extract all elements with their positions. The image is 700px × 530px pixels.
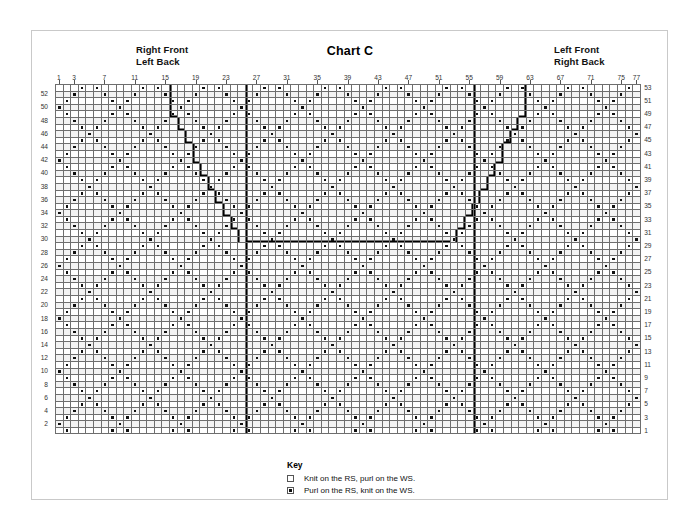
chart-cell [564,98,572,105]
chart-cell [466,216,474,223]
chart-cell [488,190,496,197]
chart-cell [162,368,170,375]
chart-cell [253,104,261,111]
chart-cell [56,335,64,342]
chart-cell [230,117,238,124]
chart-cell [215,335,223,342]
chart-cell [253,223,261,230]
chart-cell [382,368,390,375]
chart-cell [101,150,109,157]
chart-cell [185,223,193,230]
chart-cell [314,223,322,230]
chart-cell [435,408,443,415]
chart-cell [154,203,162,210]
chart-cell [238,302,246,309]
chart-cell [86,269,94,276]
chart-cell [633,183,641,190]
chart-cell [245,322,253,329]
chart-cell [268,368,276,375]
chart-cell [595,197,603,204]
chart-cell [443,197,451,204]
chart-cell [579,342,587,349]
chart-cell [321,342,329,349]
chart-cell [185,269,193,276]
chart-cell [276,401,284,408]
chart-cell [63,414,71,421]
chart-cell [169,243,177,250]
chart-cell [314,98,322,105]
chart-cell [177,177,185,184]
chart-cell [443,223,451,230]
chart-cell [238,210,246,217]
chart-cell [435,348,443,355]
chart-cell [185,111,193,118]
chart-cell [557,111,565,118]
chart-cell [481,243,489,250]
chart-cell [101,104,109,111]
chart-cell [329,124,337,131]
chart-cell [162,315,170,322]
chart-cell [352,368,360,375]
chart-cell [261,144,269,151]
chart-row [56,348,641,355]
chart-cell [344,289,352,296]
chart-cell [344,131,352,138]
chart-cell [192,223,200,230]
chart-cell [481,401,489,408]
chart-cell [382,183,390,190]
chart-cell [321,216,329,223]
chart-cell [481,164,489,171]
chart-cell [443,190,451,197]
chart-cell [534,355,542,362]
chart-cell [534,375,542,382]
chart-cell [458,427,466,434]
chart-cell [382,243,390,250]
chart-cell [124,388,132,395]
chart-cell [291,223,299,230]
chart-cell [261,117,269,124]
chart-cell [390,315,398,322]
chart-cell [595,157,603,164]
chart-cell [321,348,329,355]
chart-cell [215,276,223,283]
chart-cell [177,223,185,230]
chart-cell [299,150,307,157]
chart-cell [374,388,382,395]
chart-cell [397,348,405,355]
chart-cell [572,85,580,92]
chart-cell [481,137,489,144]
chart-cell [610,256,618,263]
chart-cell [557,408,565,415]
chart-cell [276,170,284,177]
chart-cell [617,282,625,289]
chart-cell [207,223,215,230]
chart-cell [101,223,109,230]
chart-cell [617,394,625,401]
chart-cell [412,236,420,243]
chart-cell [86,394,94,401]
chart-cell [283,131,291,138]
chart-cell [253,401,261,408]
chart-cell [420,296,428,303]
chart-cell [397,394,405,401]
chart-cell [230,414,238,421]
chart-cell [458,296,466,303]
chart-cell [268,170,276,177]
chart-cell [192,322,200,329]
chart-cell [147,368,155,375]
chart-cell [154,361,162,368]
chart-cell [458,98,466,105]
chart-cell [283,263,291,270]
chart-cell [466,276,474,283]
chart-cell [78,190,86,197]
chart-cell [390,131,398,138]
chart-cell [78,256,86,263]
chart-cell [283,111,291,118]
chart-cell [238,401,246,408]
chart-cell [109,322,117,329]
chart-cell [519,309,527,316]
chart-cell [595,375,603,382]
chart-cell [610,368,618,375]
chart-cell [496,197,504,204]
chart-cell [397,104,405,111]
